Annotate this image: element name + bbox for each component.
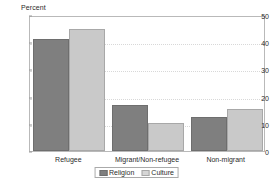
x-axis-label: Non-migrant bbox=[206, 156, 245, 163]
y-tick-label: 0 bbox=[244, 149, 273, 156]
legend-label-religion: Religion bbox=[109, 169, 134, 176]
legend-swatch-religion bbox=[99, 170, 107, 176]
bar-culture-migrant-non-refugee bbox=[148, 123, 184, 151]
y-tick-mark bbox=[29, 152, 32, 153]
bar-religion-refugee bbox=[33, 39, 69, 151]
bar-chart: Percent 01020304050 RefugeeMigrant/Non-r… bbox=[0, 0, 273, 183]
y-tick-label: 20 bbox=[244, 94, 273, 101]
chart-legend: Religion Culture bbox=[94, 167, 179, 178]
x-axis-label: Refugee bbox=[55, 156, 81, 163]
y-tick-mark bbox=[29, 124, 32, 125]
legend-swatch-culture bbox=[141, 170, 149, 176]
x-axis-label: Migrant/Non-refugee bbox=[115, 156, 179, 163]
y-tick-label: 50 bbox=[244, 13, 273, 20]
bar-religion-migrant-non-refugee bbox=[112, 105, 148, 151]
y-tick-mark bbox=[29, 43, 32, 44]
bar-religion-non-migrant bbox=[191, 117, 227, 151]
y-tick-label: 40 bbox=[244, 40, 273, 47]
y-tick-mark bbox=[29, 16, 32, 17]
legend-item-religion: Religion bbox=[99, 169, 134, 176]
y-tick-mark bbox=[29, 70, 32, 71]
y-axis-unit-label: Percent bbox=[21, 4, 46, 11]
bar-culture-non-migrant bbox=[227, 109, 263, 151]
bar-culture-refugee bbox=[69, 29, 105, 151]
legend-item-culture: Culture bbox=[141, 169, 174, 176]
y-tick-mark bbox=[29, 97, 32, 98]
y-tick-label: 10 bbox=[244, 121, 273, 128]
y-tick-label: 30 bbox=[244, 67, 273, 74]
plot-area bbox=[29, 16, 265, 152]
legend-label-culture: Culture bbox=[151, 169, 174, 176]
